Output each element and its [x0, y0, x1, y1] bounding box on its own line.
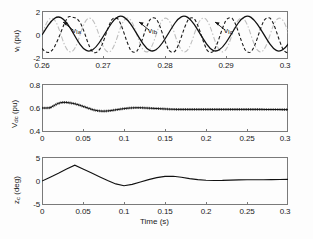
xtick-label-bottom: 0.05 — [76, 207, 91, 216]
xtick-label-bottom: 0.1 — [119, 207, 130, 216]
curve-label-vIb: vIb — [148, 26, 157, 35]
xtick-mark — [42, 56, 43, 59]
plot-canvas-middle — [0, 76, 313, 152]
xtick-label-bottom: 0.25 — [240, 207, 255, 216]
xtick-mark — [42, 202, 43, 205]
xtick-label-middle: 0.2 — [201, 134, 212, 143]
ytick-label-top: 2 — [28, 8, 40, 17]
xtick-label-top: 0.28 — [158, 61, 173, 70]
series-zc — [42, 165, 289, 186]
curve-label-vIa: vIa — [72, 26, 81, 35]
xtick-mark — [42, 129, 43, 132]
xtick-mark — [287, 202, 288, 205]
annotation-arrows-top — [63, 22, 225, 30]
panel-phase-voltages: 2 0 -2 0.26 0.27 0.28 0.29 0.3 vI (pu) v… — [0, 0, 313, 76]
ylabel-bottom-main: z — [12, 200, 21, 204]
ylabel-bottom-unit: (deg) — [12, 176, 21, 197]
ytick-label-bottom: 0 — [28, 177, 40, 186]
xtick-mark — [83, 129, 84, 132]
xtick-mark — [247, 202, 248, 205]
xlabel-bottom: Time (s) — [140, 217, 169, 226]
xtick-label-top: 0.3 — [280, 61, 291, 70]
curve-label-vIc-sub: Ic — [228, 29, 233, 35]
ylabel-top-main: v — [12, 48, 21, 52]
xtick-mark — [165, 129, 166, 132]
xtick-label-middle: 0.1 — [119, 134, 130, 143]
curve-label-vIc: vIc — [224, 26, 233, 35]
ytick-label-middle: 0.4 — [22, 127, 40, 136]
ytick-label-bottom: -5 — [24, 200, 40, 209]
ylabel-middle-sub: dc — [13, 116, 19, 122]
xtick-mark — [247, 129, 248, 132]
xtick-label-top: 0.29 — [219, 61, 234, 70]
curve-label-vIa-sub: Ia — [76, 29, 81, 35]
ylabel-top: vI (pu) — [12, 30, 21, 52]
xtick-mark — [165, 202, 166, 205]
ytick-label-middle: 0.6 — [22, 104, 40, 113]
xtick-label-top: 0.27 — [96, 61, 111, 70]
ylabel-bottom: zc (deg) — [12, 176, 21, 204]
curve-label-vIb-sub: Ib — [152, 29, 157, 35]
xtick-mark — [165, 56, 166, 59]
panel-dc-voltage: 0.8 0.6 0.4 0 0.05 0.1 0.15 0.2 0.25 0.3… — [0, 76, 313, 152]
ytick-label-bottom: 5 — [28, 154, 40, 163]
figure-container: 2 0 -2 0.26 0.27 0.28 0.29 0.3 vI (pu) v… — [0, 0, 313, 239]
xtick-label-middle: 0.25 — [240, 134, 255, 143]
xtick-mark — [103, 56, 104, 59]
xtick-label-top: 0.26 — [35, 61, 50, 70]
xtick-label-bottom: 0.3 — [280, 207, 291, 216]
xtick-mark — [206, 202, 207, 205]
ylabel-middle-main: V — [10, 123, 19, 128]
xtick-label-bottom: 0.15 — [158, 207, 173, 216]
panel-angle-zc: 5 0 -5 0 0.05 0.1 0.15 0.2 0.25 0.3 zc (… — [0, 152, 313, 239]
series-vIc — [42, 18, 289, 52]
xtick-mark — [124, 129, 125, 132]
xtick-label-middle: 0.3 — [280, 134, 291, 143]
ylabel-bottom-sub: c — [15, 197, 21, 200]
ylabel-middle-unit: (pu) — [10, 100, 19, 116]
xtick-label-middle: 0.05 — [76, 134, 91, 143]
xtick-mark — [226, 56, 227, 59]
xtick-mark — [124, 202, 125, 205]
ytick-label-middle: 0.8 — [22, 81, 40, 90]
xtick-mark — [206, 129, 207, 132]
ytick-label-top: 0 — [28, 31, 40, 40]
xtick-mark — [287, 129, 288, 132]
xtick-mark — [83, 202, 84, 205]
xtick-label-middle: 0.15 — [158, 134, 173, 143]
xtick-mark — [287, 56, 288, 59]
xtick-label-bottom: 0 — [40, 207, 44, 216]
ylabel-top-sub: I — [15, 46, 21, 48]
ylabel-top-unit: (pu) — [12, 30, 21, 46]
ylabel-middle: Vdc (pu) — [10, 100, 19, 128]
xtick-label-middle: 0 — [40, 134, 44, 143]
xtick-label-bottom: 0.2 — [201, 207, 212, 216]
